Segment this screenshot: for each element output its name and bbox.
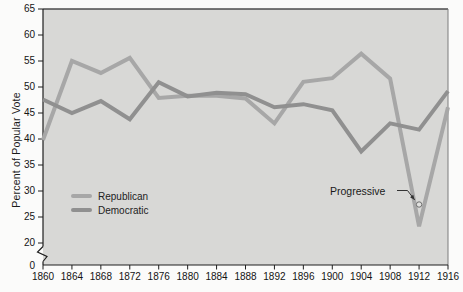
legend-label-democratic: Democratic — [98, 205, 149, 216]
republican-line-swatch — [71, 194, 92, 199]
y-origin-label: 0 — [29, 260, 35, 271]
progressive-marker — [416, 202, 421, 207]
y-tick-label: 30 — [24, 185, 36, 196]
x-tick-label: 1872 — [119, 271, 142, 282]
democratic-line-swatch — [71, 208, 92, 213]
y-tick-label: 40 — [24, 133, 36, 144]
popular-vote-line-chart-figure: 2025303540455055606501860186418681872187… — [0, 0, 463, 292]
x-tick-label: 1880 — [177, 271, 200, 282]
y-tick-label: 60 — [24, 29, 36, 40]
x-tick-label: 1884 — [205, 271, 228, 282]
y-tick-label: 20 — [24, 237, 36, 248]
x-tick-label: 1912 — [408, 271, 431, 282]
legend-label-republican: Republican — [98, 191, 148, 202]
y-axis-title: Percent of Popular Vote — [10, 92, 22, 208]
y-tick-label: 45 — [24, 107, 36, 118]
y-tick-label: 55 — [24, 55, 36, 66]
x-tick-label: 1908 — [379, 271, 402, 282]
legend-item-democratic: Democratic — [71, 203, 149, 217]
x-tick-label: 1864 — [61, 271, 84, 282]
x-tick-label: 1860 — [32, 271, 55, 282]
chart-canvas: 2025303540455055606501860186418681872187… — [0, 0, 463, 292]
x-tick-label: 1868 — [90, 271, 113, 282]
plot-area — [43, 9, 448, 265]
x-tick-label: 1896 — [292, 271, 315, 282]
progressive-annotation-label: Progressive — [330, 185, 385, 197]
legend-item-republican: Republican — [71, 189, 149, 203]
y-tick-label: 50 — [24, 81, 36, 92]
y-tick-label: 65 — [24, 3, 36, 14]
x-tick-label: 1916 — [437, 271, 460, 282]
x-tick-label: 1904 — [350, 271, 373, 282]
legend: Republican Democratic — [71, 189, 149, 217]
y-tick-label: 35 — [24, 159, 36, 170]
x-tick-label: 1888 — [234, 271, 257, 282]
x-tick-label: 1900 — [321, 271, 344, 282]
x-tick-label: 1876 — [148, 271, 171, 282]
y-tick-label: 25 — [24, 211, 36, 222]
x-tick-label: 1892 — [263, 271, 286, 282]
